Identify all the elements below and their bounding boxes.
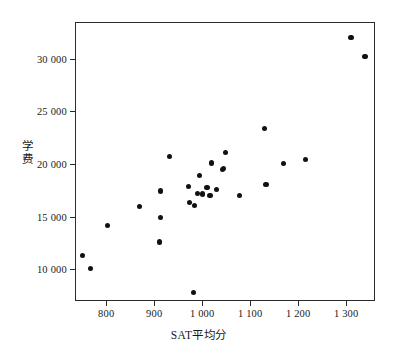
data-point bbox=[263, 182, 268, 187]
data-point bbox=[362, 54, 367, 59]
data-point bbox=[197, 173, 202, 178]
data-point bbox=[192, 203, 197, 208]
data-point bbox=[158, 215, 163, 220]
x-tick-mark bbox=[106, 301, 107, 306]
data-point bbox=[88, 266, 93, 271]
y-tick-label: 25 000 bbox=[37, 106, 67, 117]
y-axis-label: 学费 bbox=[19, 140, 35, 166]
data-point bbox=[200, 191, 205, 196]
data-point bbox=[223, 150, 228, 155]
data-point bbox=[237, 193, 242, 198]
y-tick-label: 20 000 bbox=[37, 159, 67, 170]
data-point bbox=[157, 239, 162, 244]
scatter-plot-figure: 8009001 0001 1001 2001 300 10 00015 0002… bbox=[0, 0, 397, 358]
data-point bbox=[80, 253, 85, 258]
data-point bbox=[281, 161, 286, 166]
data-point bbox=[221, 166, 226, 171]
x-tick-mark bbox=[202, 301, 203, 306]
x-axis-label: SAT平均分 bbox=[0, 326, 397, 342]
x-tick-mark bbox=[346, 301, 347, 306]
y-tick-mark bbox=[70, 111, 75, 112]
x-tick-mark bbox=[154, 301, 155, 306]
x-tick-label: 1 000 bbox=[190, 308, 215, 319]
x-tick-label: 900 bbox=[146, 308, 162, 319]
data-point bbox=[303, 157, 308, 162]
y-tick-label: 10 000 bbox=[37, 264, 67, 275]
x-tick-mark bbox=[298, 301, 299, 306]
data-point bbox=[262, 126, 267, 131]
data-point bbox=[214, 187, 219, 192]
data-point bbox=[167, 154, 172, 159]
y-tick-label: 15 000 bbox=[37, 211, 67, 222]
x-tick-mark bbox=[250, 301, 251, 306]
data-point bbox=[137, 204, 142, 209]
plot-area bbox=[75, 22, 375, 301]
y-tick-mark bbox=[70, 269, 75, 270]
y-tick-mark bbox=[70, 164, 75, 165]
x-tick-label: 1 100 bbox=[238, 308, 263, 319]
x-tick-label: 800 bbox=[98, 308, 114, 319]
data-points-layer bbox=[76, 23, 374, 300]
data-point bbox=[348, 35, 353, 40]
y-tick-label: 30 000 bbox=[37, 53, 67, 64]
data-point bbox=[209, 160, 214, 165]
data-point bbox=[105, 223, 110, 228]
data-point bbox=[158, 188, 163, 193]
data-point bbox=[191, 290, 196, 295]
y-tick-mark bbox=[70, 217, 75, 218]
x-tick-label: 1 300 bbox=[334, 308, 359, 319]
x-tick-label: 1 200 bbox=[286, 308, 311, 319]
data-point bbox=[207, 193, 212, 198]
data-point bbox=[186, 184, 191, 189]
y-tick-mark bbox=[70, 59, 75, 60]
data-point bbox=[204, 185, 209, 190]
